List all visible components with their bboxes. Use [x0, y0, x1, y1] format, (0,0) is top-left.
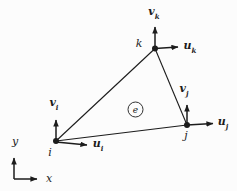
diagram-geometry: [0, 0, 237, 191]
node-i-dot: [53, 138, 59, 144]
node-k-u-label: uk: [184, 40, 197, 53]
node-j-v-label: vj: [180, 83, 189, 96]
element-label: e: [133, 106, 138, 115]
node-k-label: k: [136, 38, 143, 49]
node-i-label: i: [48, 147, 52, 158]
axis-y-label: y: [12, 136, 18, 147]
node-j-dot: [184, 122, 190, 128]
node-j-label: j: [184, 130, 187, 141]
arrow-u-k-icon: [155, 47, 178, 49]
node-j-u-label: uj: [218, 116, 229, 129]
arrow-u-i-icon: [56, 142, 87, 145]
edge-i-j: [56, 125, 187, 141]
node-i-u-label: ui: [93, 138, 104, 151]
arrow-u-j-icon: [187, 124, 213, 126]
fem-triangle-element-diagram: vk uk vj uj vi ui k j i e y x: [0, 0, 237, 191]
node-i-v-label: vi: [49, 97, 58, 110]
edge-i-k: [56, 49, 155, 142]
node-k-v-label: vk: [148, 6, 159, 19]
axis-x-label: x: [46, 173, 52, 184]
node-k-dot: [152, 46, 158, 52]
